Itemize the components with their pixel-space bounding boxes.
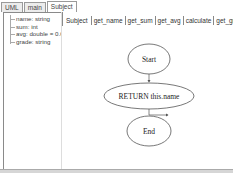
tree-item-sum[interactable]: sum: int <box>6 23 64 31</box>
start-node[interactable]: Start <box>128 44 170 74</box>
return-label: RETURN this.name <box>119 92 180 101</box>
tab-get-avg[interactable]: get_avg <box>156 16 184 25</box>
tree-item-grade[interactable]: grade: string <box>6 38 64 46</box>
tree-item-avg[interactable]: avg: double = 0.0 <box>6 30 64 38</box>
arrow-head-icon <box>148 80 151 83</box>
tab-uml[interactable]: UML <box>1 2 23 12</box>
tab-get-name[interactable]: get_name <box>91 16 126 25</box>
class-members-panel: name: string sum: int avg: double = 0.0 … <box>3 12 63 171</box>
tree-item-name[interactable]: name: string <box>6 15 64 23</box>
outer-tab-bar: UML main Subject <box>1 1 78 12</box>
start-label: Start <box>142 55 157 64</box>
method-tab-bar: Subject get_name get_sum get_avg calcula… <box>64 15 233 25</box>
member-tree: name: string sum: int avg: double = 0.0 … <box>6 15 64 45</box>
tab-main[interactable]: main <box>24 2 46 12</box>
return-node[interactable]: RETURN this.name <box>104 83 194 109</box>
arrow-head-icon <box>166 114 169 117</box>
end-label: End <box>143 127 155 136</box>
horizontal-scrollbar[interactable] <box>0 169 233 173</box>
tab-get-sum[interactable]: get_sum <box>126 16 156 25</box>
tab-subject[interactable]: Subject <box>47 1 77 12</box>
tab-get-grade[interactable]: get_grade <box>214 16 233 25</box>
tab-calculate[interactable]: calculate <box>184 16 215 25</box>
tab-subject-class[interactable]: Subject <box>64 16 91 25</box>
end-node[interactable]: End <box>127 116 171 146</box>
flowchart-canvas[interactable]: Start RETURN this.name End <box>62 26 233 169</box>
connector-return-end <box>149 109 168 115</box>
